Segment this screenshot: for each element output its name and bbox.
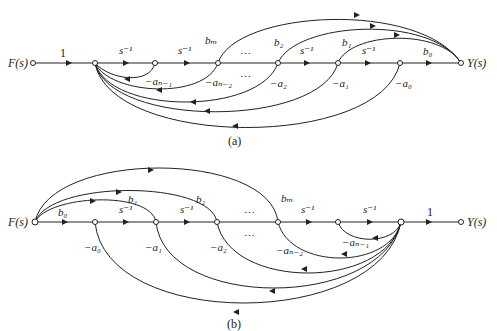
arrow-icon	[269, 288, 275, 294]
feedback-label: −a₁	[332, 77, 349, 89]
feedback-label: −aₙ₋₁	[145, 75, 172, 87]
ellipsis: …	[240, 44, 251, 56]
feedback-label: −aₙ₋₁	[342, 236, 369, 248]
arrow-icon	[66, 60, 72, 66]
feedforward-label: b₁	[342, 36, 352, 48]
diagram-b: F(s) Y(s) b₀ s⁻¹ s⁻¹ … … s⁻¹ s⁻¹ 1 b₁ b₂…	[7, 167, 486, 331]
feedback-label: −aₙ₋₂	[205, 76, 232, 88]
node	[336, 61, 341, 66]
caption-b: (b)	[227, 317, 241, 331]
input-label: F(s)	[7, 215, 28, 229]
arrow-icon	[233, 309, 239, 315]
feedforward-arc-b1	[338, 38, 461, 63]
arrow-icon	[190, 99, 196, 105]
arrow-icon	[306, 219, 312, 225]
caption-a: (a)	[228, 134, 241, 148]
arrow-icon	[123, 219, 129, 225]
arrow-icon	[204, 108, 210, 114]
gain-label: s⁻¹	[301, 203, 314, 215]
arrow-icon	[370, 23, 376, 29]
gain-label: s⁻¹	[180, 203, 193, 215]
arrow-icon	[123, 60, 129, 66]
node	[93, 220, 98, 225]
feedback-label: −aₙ₋₂	[276, 244, 303, 256]
node	[276, 220, 281, 225]
node	[336, 220, 341, 225]
node	[216, 61, 221, 66]
gain-label: s⁻¹	[363, 203, 376, 215]
gain-label: b₀	[58, 206, 68, 218]
node	[154, 220, 159, 225]
gain-label: s⁻¹	[178, 44, 191, 56]
arrow-icon	[341, 251, 347, 257]
arrow-icon	[354, 12, 360, 18]
feedforward-label: b₂	[274, 36, 284, 48]
diagram-a: F(s) Y(s) 1 s⁻¹ s⁻¹ … … s⁻¹ s⁻¹ b₀ bₘ b₂…	[7, 12, 486, 148]
gain-label: s⁻¹	[300, 44, 313, 56]
arrow-icon	[232, 123, 238, 129]
ellipsis: …	[240, 67, 251, 79]
ellipsis: …	[244, 203, 255, 215]
arrow-icon	[90, 198, 96, 204]
arrow-icon	[394, 32, 400, 38]
feedback-label: −a₀	[395, 77, 412, 89]
feedforward-label: bₘ	[281, 192, 293, 204]
input-label: F(s)	[7, 56, 28, 70]
arrow-icon	[301, 266, 307, 272]
arrow-icon	[367, 219, 373, 225]
node	[276, 61, 281, 66]
feedforward-label: bₘ	[205, 34, 217, 46]
node-output	[459, 220, 464, 225]
gain-label: 1	[60, 46, 66, 60]
arrow-icon	[184, 219, 190, 225]
feedback-label: −a₂	[270, 77, 287, 89]
node-summing	[398, 219, 404, 225]
arrow-icon	[156, 87, 162, 93]
arrow-icon	[365, 60, 371, 66]
node	[215, 220, 220, 225]
output-label: Y(s)	[467, 215, 486, 229]
arrow-icon	[116, 189, 122, 195]
node-input	[31, 61, 36, 66]
arrow-icon	[184, 60, 190, 66]
feedback-label: −a₀	[84, 241, 101, 253]
arrow-icon	[426, 219, 432, 225]
node	[398, 61, 403, 66]
node-input	[32, 219, 38, 225]
arrow-icon	[372, 235, 378, 241]
gain-label: b₀	[423, 45, 433, 57]
feedforward-arc-bm	[35, 168, 278, 222]
feedforward-label: b₁	[128, 193, 138, 205]
gain-label: 1	[427, 205, 433, 219]
feedback-label: −a₂	[210, 241, 227, 253]
arrow-icon	[426, 60, 432, 66]
feedforward-arc-b1	[35, 200, 156, 222]
gain-label: s⁻¹	[119, 44, 132, 56]
ellipsis: …	[244, 226, 255, 238]
signal-flow-graphs: F(s) Y(s) 1 s⁻¹ s⁻¹ … … s⁻¹ s⁻¹ b₀ bₘ b₂…	[0, 0, 497, 331]
node	[153, 61, 158, 66]
output-label: Y(s)	[467, 56, 486, 70]
arrow-icon	[62, 219, 68, 225]
arrow-icon	[304, 60, 310, 66]
node	[93, 61, 98, 66]
node-output	[459, 61, 464, 66]
feedforward-label: b₂	[196, 193, 206, 205]
feedback-label: −a₁	[145, 241, 162, 253]
gain-label: s⁻¹	[362, 44, 375, 56]
